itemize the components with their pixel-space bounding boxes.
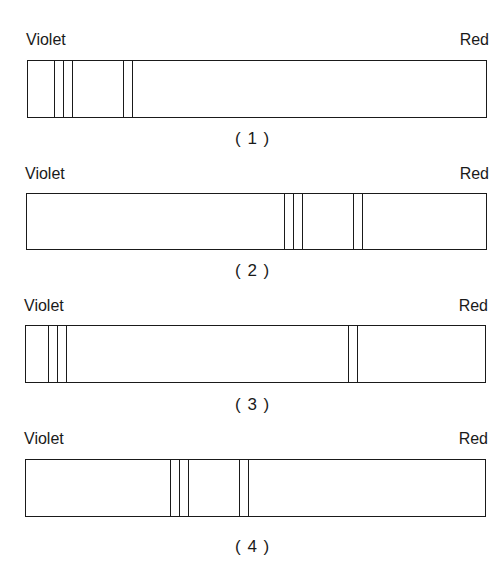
red-label: Red xyxy=(459,297,488,315)
spectral-line xyxy=(179,460,180,516)
violet-label: Violet xyxy=(26,31,66,49)
violet-label: Violet xyxy=(24,430,64,448)
spectrum-caption: ( 1 ) xyxy=(235,129,270,149)
red-label: Red xyxy=(459,430,488,448)
spectrum-caption: ( 2 ) xyxy=(235,261,270,281)
spectral-line xyxy=(72,61,73,117)
spectral-line xyxy=(170,460,171,516)
violet-label: Violet xyxy=(24,297,64,315)
spectral-line xyxy=(353,194,354,249)
spectral-line xyxy=(123,61,124,117)
spectral-line xyxy=(357,326,358,382)
spectral-line xyxy=(57,326,58,382)
spectrum-box xyxy=(26,193,487,250)
spectral-line xyxy=(362,194,363,249)
spectral-line xyxy=(66,326,67,382)
spectral-line xyxy=(248,460,249,516)
spectral-line xyxy=(302,194,303,249)
spectrum-box xyxy=(25,325,486,383)
spectrum-caption: ( 4 ) xyxy=(235,537,270,557)
spectral-line xyxy=(348,326,349,382)
spectral-line xyxy=(48,326,49,382)
spectral-line xyxy=(54,61,55,117)
spectrum-box xyxy=(27,60,487,118)
spectral-line xyxy=(132,61,133,117)
spectral-line xyxy=(188,460,189,516)
spectrum-caption: ( 3 ) xyxy=(235,395,270,415)
spectrum-box xyxy=(25,459,486,517)
spectral-line xyxy=(63,61,64,117)
spectral-line xyxy=(284,194,285,249)
red-label: Red xyxy=(460,31,489,49)
spectral-line xyxy=(293,194,294,249)
spectral-line xyxy=(239,460,240,516)
violet-label: Violet xyxy=(25,165,65,183)
red-label: Red xyxy=(460,165,489,183)
